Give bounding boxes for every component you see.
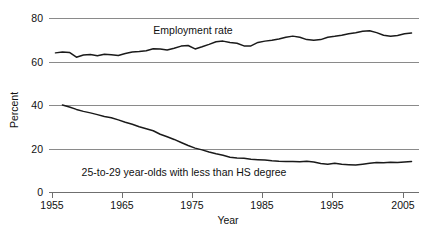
y-axis-title: Percent [8,92,20,128]
series-line-employment-rate [55,31,411,58]
x-tick-label-5: 2005 [391,199,415,211]
gridlines [49,19,419,150]
x-tick-label-3: 1985 [250,199,274,211]
x-tick-label-1: 1965 [110,199,134,211]
employment-and-education-line-chart: 1955 1965 1975 1985 1995 2005 0 20 40 60… [0,0,432,235]
x-tick-labels: 1955 1965 1975 1985 1995 2005 [40,199,415,211]
y-tick-label-40: 40 [31,99,43,111]
annotation-employment-rate: Employment rate [153,24,233,36]
y-tick-label-60: 60 [31,56,43,68]
annotation-less-than-hs: 25-to-29 year-olds with less than HS deg… [82,166,287,178]
x-tick-label-0: 1955 [40,199,64,211]
y-tick-label-80: 80 [31,12,43,24]
x-tick-label-2: 1975 [180,199,204,211]
y-tick-label-20: 20 [31,143,43,155]
y-tick-labels: 0 20 40 60 80 [31,12,43,198]
x-tick-label-4: 1995 [320,199,344,211]
x-axis-title: Year [217,214,239,226]
series-line-less-than-hs [62,105,411,165]
chart-figure: 1955 1965 1975 1985 1995 2005 0 20 40 60… [0,0,432,235]
y-tick-label-0: 0 [37,186,43,198]
x-axis [49,193,419,198]
